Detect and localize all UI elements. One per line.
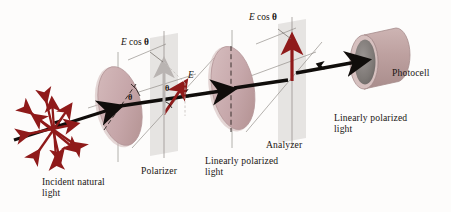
label-photocell: Photocell (392, 68, 430, 79)
e-vector-symbol: E (188, 70, 194, 80)
label-e-vector: E (188, 70, 194, 80)
theta-symbol-1: θ (144, 37, 149, 47)
label-polarizer: Polarizer (141, 166, 177, 177)
label-theta-polarizer: θ (128, 93, 132, 102)
cos-text-1: cos (129, 37, 142, 47)
label-incident-light: Incident natural light (42, 177, 105, 198)
polarizer-disk (88, 62, 149, 151)
cos-text-2: cos (257, 12, 270, 22)
label-linearly-polarized-2: Linearly polarized light (334, 113, 407, 134)
figure-canvas: E cos θ E cos θ E θ θ Incident natural l… (0, 0, 451, 212)
unpolarized-light-starburst (28, 100, 76, 160)
e-symbol-1: E (121, 37, 127, 47)
analyzer-disk (202, 43, 261, 135)
label-linearly-polarized-1: Linearly polarized light (205, 156, 278, 177)
photocell-cylinder (350, 28, 410, 89)
label-theta-vector: θ (165, 84, 169, 93)
e-symbol-2: E (249, 12, 255, 22)
theta-symbol-2: θ (272, 12, 277, 22)
label-analyzer: Analyzer (266, 140, 302, 151)
label-e-cos-theta-2: E cos θ (249, 12, 277, 22)
label-e-cos-theta-1: E cos θ (121, 37, 149, 47)
